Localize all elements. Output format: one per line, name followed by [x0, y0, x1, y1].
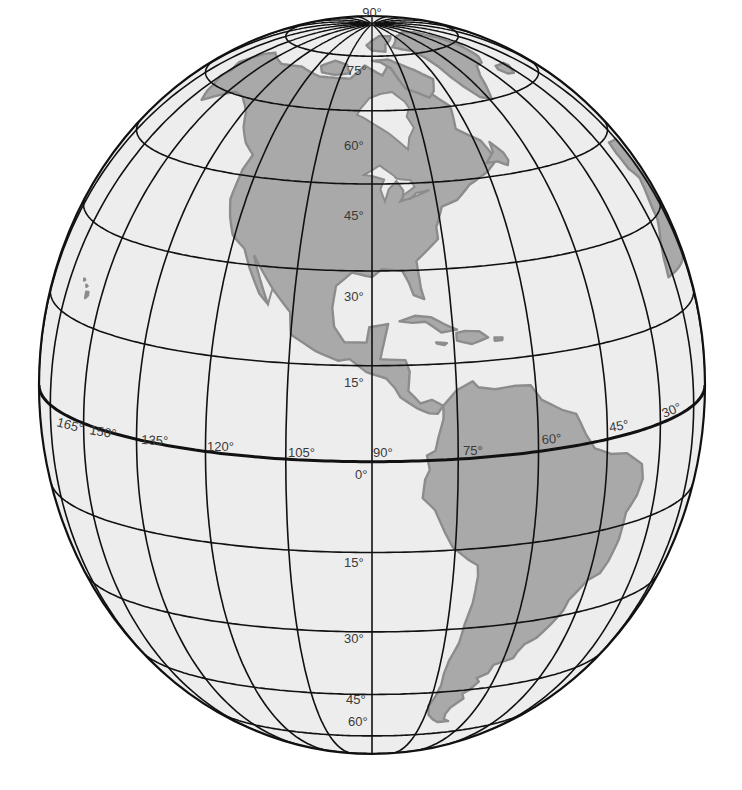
puerto-rico-landmass: [494, 337, 502, 340]
latitude-label: 30°: [344, 289, 364, 304]
longitude-label: 105°: [288, 445, 315, 460]
latitude-label: 60°: [348, 714, 368, 729]
longitude-label: 90°: [373, 445, 393, 460]
latitude-label: 75°: [347, 63, 367, 78]
north-pole-label: 90°: [362, 5, 382, 20]
longitude-label: 60°: [541, 431, 562, 447]
longitude-label: 135°: [141, 432, 169, 448]
latitude-label: 15°: [344, 375, 364, 390]
north-pole-marker: [370, 22, 373, 25]
hawaii-2-landmass: [86, 285, 87, 287]
latitude-label: 0°: [355, 467, 367, 482]
longitude-label: 120°: [207, 439, 234, 454]
hawaii-3-landmass: [84, 279, 85, 281]
latitude-label: 45°: [346, 692, 366, 707]
jamaica-landmass: [436, 342, 447, 345]
longitude-label: 75°: [463, 443, 483, 458]
latitude-label: 45°: [344, 208, 364, 223]
latitude-label: 30°: [344, 631, 364, 646]
latitude-label: 15°: [344, 555, 364, 570]
globe-map: 90° 75°60°45°30°15°0°15°30°45°60°165°150…: [0, 0, 742, 790]
latitude-label: 60°: [344, 138, 364, 153]
orthographic-globe: 90° 75°60°45°30°15°0°15°30°45°60°165°150…: [0, 0, 742, 790]
